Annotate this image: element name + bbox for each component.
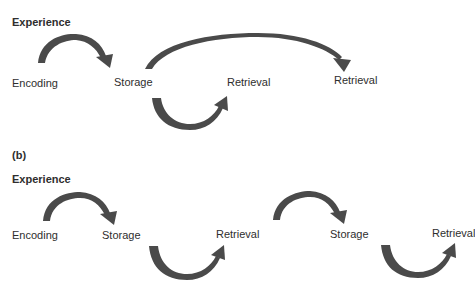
node-retrieval-b2: Retrieval [432,227,475,239]
node-storage-b2: Storage [330,228,369,240]
panel-a-heading: Experience [12,16,71,28]
node-storage-a: Storage [114,76,153,88]
node-retrieval-b1: Retrieval [216,228,259,240]
node-storage-b1: Storage [102,229,141,241]
node-encoding-b: Encoding [12,229,58,241]
arrow-retrieval-to-storage-b [273,191,347,224]
arrow-storage-to-far-retrieval-a [145,33,351,72]
node-retrieval-a: Retrieval [227,76,270,88]
arrow-storage-to-retrieval-a [152,96,228,130]
arrow-encoding-to-storage-a [38,34,113,68]
node-encoding-a: Encoding [12,77,58,89]
arrow-encoding-to-storage-b [43,192,117,225]
arrow-storage-to-retrieval-b2 [381,243,456,278]
panel-b-heading: Experience [12,173,71,185]
panel-b-label: (b) [12,149,26,161]
node-retrieval-far-a: Retrieval [334,74,377,86]
arrow-storage-to-retrieval-b1 [149,245,225,280]
